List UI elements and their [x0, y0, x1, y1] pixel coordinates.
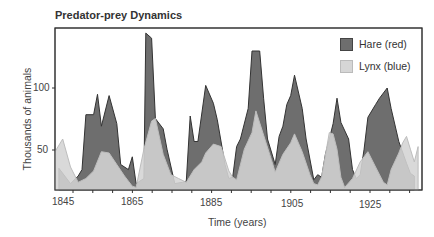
- legend-label-lynx: Lynx (blue): [359, 60, 411, 72]
- y-tick-100: 100: [33, 82, 50, 93]
- x-tick-1865: 1865: [121, 196, 143, 207]
- x-tick-1905: 1905: [281, 198, 303, 209]
- legend-item-lynx: Lynx (blue): [340, 57, 411, 75]
- legend: Hare (red) Lynx (blue): [340, 35, 411, 79]
- legend-label-hare: Hare (red): [359, 38, 407, 50]
- hare-swatch-icon: [340, 38, 353, 51]
- legend-item-hare: Hare (red): [340, 35, 411, 53]
- y-tick-50: 50: [37, 144, 48, 155]
- x-tick-1885: 1885: [200, 197, 222, 208]
- x-axis-label: Time (years): [208, 216, 267, 228]
- x-tick-1845: 1845: [52, 196, 74, 207]
- lynx-swatch-icon: [340, 60, 353, 73]
- x-tick-1925: 1925: [359, 199, 381, 210]
